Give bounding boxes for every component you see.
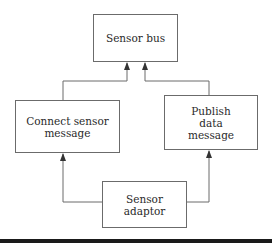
arrowhead-icon (142, 62, 148, 70)
node-label: Connect sensor message (26, 115, 109, 139)
arrowhead-icon (206, 150, 212, 158)
node-sensor-bus: Sensor bus (93, 14, 178, 62)
node-label: Sensor bus (106, 32, 165, 44)
edge-publish-to-bus (145, 63, 209, 95)
bottom-rule (0, 239, 272, 243)
arrowhead-icon (60, 153, 66, 161)
node-sensor-adaptor: Sensor adaptor (102, 181, 187, 228)
node-publish-data-message: Publish data message (164, 95, 258, 150)
arrowhead-icon (124, 62, 130, 70)
edge-adaptor-to-publish (186, 151, 209, 202)
node-connect-sensor-message: Connect sensor message (15, 100, 120, 153)
node-label: Publish data message (188, 105, 234, 141)
edge-connect-to-bus (63, 63, 127, 100)
edge-adaptor-to-connect (63, 154, 102, 202)
node-label: Sensor adaptor (124, 193, 166, 217)
